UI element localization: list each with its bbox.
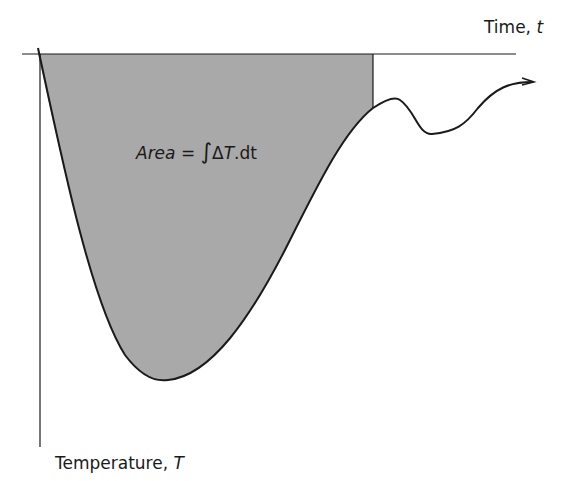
temperature-axis-variable: T	[174, 453, 184, 473]
temperature-axis-label: Temperature, T	[55, 453, 184, 473]
integral-symbol: ∫	[201, 139, 212, 164]
area-formula-equals: =	[176, 143, 201, 163]
time-axis-label-text: Time,	[484, 17, 536, 37]
diagram-canvas	[0, 0, 566, 481]
area-formula: Area = ∫ΔT.dt	[136, 139, 257, 164]
delta-symbol: Δ	[212, 143, 224, 163]
area-formula-variable: T	[224, 143, 234, 163]
temperature-axis-label-text: Temperature,	[55, 453, 174, 473]
shaded-area	[38, 54, 373, 380]
time-axis-label: Time, t	[484, 17, 543, 37]
time-axis-variable: t	[536, 17, 543, 37]
area-formula-lhs: Area	[136, 143, 176, 163]
area-formula-dt: .dt	[234, 143, 257, 163]
